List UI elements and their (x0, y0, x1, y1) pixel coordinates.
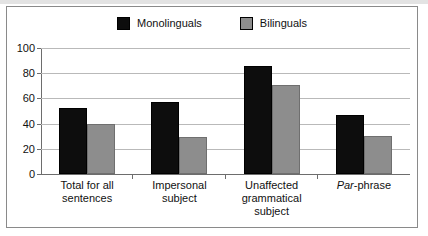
bar-group-par-phrase (318, 48, 410, 174)
x-label-impersonal-subject: Impersonal subject (133, 179, 225, 218)
legend-swatch-bilinguals-icon (240, 17, 253, 30)
bar-monolinguals-impersonal-subject (151, 102, 179, 174)
x-label-line-2: grammatical (242, 192, 302, 204)
bar-monolinguals-par-phrase (336, 115, 364, 174)
bar-group-impersonal-subject (133, 48, 225, 174)
x-label-line-2: sentences (62, 192, 112, 204)
bar-bilinguals-par-phrase (364, 136, 392, 174)
bar-chart-figure: Monolinguals Bilinguals 100 80 60 40 20 (0, 0, 428, 236)
bar-bilinguals-unaffected-grammatical-subject (272, 85, 300, 174)
bar-monolinguals-total-for-all-sentences (59, 108, 87, 174)
x-label-par-phrase: Par-phrase (318, 179, 410, 218)
legend-swatch-monolinguals-icon (117, 17, 130, 30)
bar-groups (41, 48, 410, 174)
bar-group-total-for-all-sentences (41, 48, 133, 174)
x-label-total-for-all-sentences: Total for all sentences (41, 179, 133, 218)
bar-bilinguals-impersonal-subject (179, 137, 207, 174)
x-label-plain-part: -phrase (354, 179, 391, 191)
legend-entry-bilinguals: Bilinguals (240, 17, 307, 30)
y-tick-label-60: 60 (23, 92, 35, 104)
y-tick-label-80: 80 (23, 67, 35, 79)
legend-entry-monolinguals: Monolinguals (117, 17, 202, 30)
x-label-line-1: Total for all (61, 179, 114, 191)
y-tick-label-20: 20 (23, 143, 35, 155)
x-label-line-1: Unaffected (245, 179, 298, 191)
x-label-italic-part: Par (337, 179, 354, 191)
gridline-0: 0 (41, 174, 410, 175)
x-label-line-3: subject (254, 205, 289, 217)
x-label-line-2: subject (162, 192, 197, 204)
bar-bilinguals-total-for-all-sentences (87, 124, 115, 174)
bar-monolinguals-unaffected-grammatical-subject (244, 66, 272, 174)
page-top-edge-artifact (0, 0, 428, 4)
bar-group-unaffected-grammatical-subject (226, 48, 318, 174)
y-tick-mark-0 (37, 174, 41, 175)
legend-label-monolinguals: Monolinguals (137, 18, 202, 29)
y-tick-label-0: 0 (29, 168, 35, 180)
y-tick-label-40: 40 (23, 118, 35, 130)
x-label-line-1: Impersonal (152, 179, 206, 191)
legend-label-bilinguals: Bilinguals (260, 18, 307, 29)
x-axis-category-labels: Total for all sentences Impersonal subje… (41, 179, 410, 218)
chart-legend: Monolinguals Bilinguals (6, 14, 418, 32)
x-label-unaffected-grammatical-subject: Unaffected grammatical subject (226, 179, 318, 218)
y-tick-label-100: 100 (17, 42, 35, 54)
plot-area: 100 80 60 40 20 0 (41, 48, 410, 174)
